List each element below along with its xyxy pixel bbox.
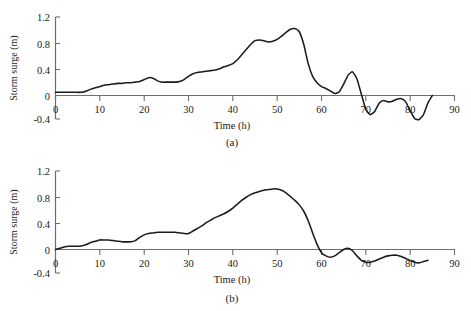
series-line-a xyxy=(56,29,433,120)
x-tick-label: 0 xyxy=(53,258,58,269)
x-tick-label: 0 xyxy=(53,104,58,115)
x-tick-label: 90 xyxy=(449,258,460,269)
x-tick-label: 60 xyxy=(316,104,327,115)
x-tick-label: 30 xyxy=(183,258,194,269)
x-tick-label: 70 xyxy=(361,258,372,269)
y-tick-labels-a: 1.2 0.8 0.4 0 -0.4 xyxy=(33,12,50,125)
x-tick-label: 10 xyxy=(95,258,106,269)
y-tick-label: 0.4 xyxy=(37,65,51,76)
y-axis-title-a: Storm surge (m) xyxy=(8,35,20,100)
panel-caption-b: (b) xyxy=(226,292,239,305)
x-axis-title-b: Time (h) xyxy=(214,274,251,286)
y-tick-label: 0 xyxy=(45,91,50,102)
axes-a xyxy=(56,17,456,119)
chart-panel-a: 1.2 0.8 0.4 0 -0.4 0 10 20 30 40 50 60 7… xyxy=(0,0,471,155)
y-tick-label: 0.4 xyxy=(37,219,51,230)
y-tick-label: 0.8 xyxy=(37,193,50,204)
axes-b xyxy=(56,171,456,273)
y-tick-labels-b: 1.2 0.8 0.4 0 -0.4 xyxy=(33,166,50,279)
figure-container: 1.2 0.8 0.4 0 -0.4 0 10 20 30 40 50 60 7… xyxy=(0,0,471,311)
y-tick-label: 1.2 xyxy=(37,166,50,177)
chart-svg-a: 1.2 0.8 0.4 0 -0.4 0 10 20 30 40 50 60 7… xyxy=(0,0,471,155)
y-tick-label: 0 xyxy=(45,245,50,256)
x-tick-label: 20 xyxy=(139,258,150,269)
series-line-b xyxy=(56,189,428,263)
y-tick-label: 1.2 xyxy=(37,12,50,23)
x-tick-label: 30 xyxy=(183,104,194,115)
x-tick-label: 10 xyxy=(95,104,106,115)
x-tick-label: 50 xyxy=(272,104,283,115)
x-tick-label: 20 xyxy=(139,104,150,115)
panel-caption-a: (a) xyxy=(226,136,239,149)
x-ticks-b xyxy=(56,250,455,256)
y-tick-label: -0.4 xyxy=(33,114,50,125)
x-tick-labels-a: 0 10 20 30 40 50 60 70 80 90 xyxy=(53,104,460,115)
x-tick-labels-b: 0 10 20 30 40 50 60 70 80 90 xyxy=(53,258,460,269)
x-tick-label: 90 xyxy=(449,104,460,115)
y-tick-label: -0.4 xyxy=(33,268,50,279)
x-tick-label: 60 xyxy=(316,258,327,269)
y-axis-title-b: Storm surge (m) xyxy=(8,189,20,254)
chart-svg-b: 1.2 0.8 0.4 0 -0.4 0 10 20 30 40 50 60 7… xyxy=(0,152,471,311)
y-tick-label: 0.8 xyxy=(37,39,50,50)
x-tick-label: 50 xyxy=(272,258,283,269)
x-axis-title-a: Time (h) xyxy=(214,120,251,132)
x-tick-label: 40 xyxy=(228,258,239,269)
x-tick-label: 40 xyxy=(228,104,239,115)
chart-panel-b: 1.2 0.8 0.4 0 -0.4 0 10 20 30 40 50 60 7… xyxy=(0,152,471,307)
